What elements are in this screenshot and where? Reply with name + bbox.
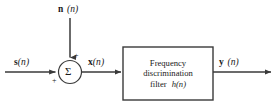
filter-caption-line-1: Frequency: [150, 58, 186, 68]
output-index: (n): [227, 57, 238, 67]
filter-caption-prefix: filter: [150, 79, 167, 89]
filter-caption-line-3: filterh(n): [150, 79, 186, 89]
noise-input-label: n (n): [58, 5, 78, 15]
filter-impulse-response-index: (n): [176, 79, 186, 89]
filter-caption-line-2: discrimination: [143, 68, 193, 78]
signal-input-label: s(n): [14, 58, 29, 68]
noise-plus-sign: +: [74, 52, 79, 60]
sum-output-index: (n): [93, 57, 104, 67]
filter-output-label: y (n): [219, 58, 239, 68]
signal-index: (n): [18, 57, 29, 67]
sigma-glyph: Σ: [65, 66, 71, 77]
block-diagram: n (n) s(n) Σ + + x(n) Frequency discrimi…: [0, 0, 277, 109]
signal-plus-sign: +: [52, 77, 57, 85]
noise-index: (n): [67, 4, 78, 14]
sum-output-label: x(n): [88, 58, 104, 68]
filter-block-caption: Frequency discrimination filterh(n): [123, 47, 213, 100]
